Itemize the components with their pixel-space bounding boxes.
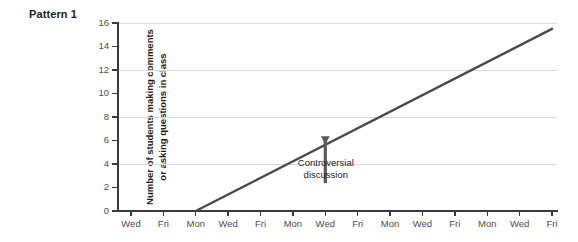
y-axis-tick-label: 8 [93,111,109,122]
y-axis-tick-label: 16 [93,17,109,28]
plot-area [117,23,557,211]
y-axis-title: Number of students making comments or as… [55,23,87,211]
x-axis-tick-mark [519,211,520,216]
y-axis-tick-mark [112,140,117,141]
y-axis-tick-mark [112,210,117,211]
y-axis-tick-mark [112,22,117,23]
x-axis-tick-mark [325,211,326,216]
y-axis-tick-label: 2 [93,181,109,192]
gridline [117,23,557,24]
y-axis-tick-label: 10 [93,87,109,98]
x-axis-tick-mark [422,211,423,216]
annotation-line-1: Controversial [248,157,403,169]
y-axis-tick-label: 14 [93,40,109,51]
y-axis-tick-mark [112,93,117,94]
x-axis-tick-mark [551,211,552,216]
gridline [117,70,557,71]
y-axis-line [117,22,119,212]
x-axis-tick-mark [130,211,131,216]
y-axis-tick-mark [112,69,117,70]
x-axis-tick-mark [163,211,164,216]
y-axis-tick-label: 6 [93,134,109,145]
y-axis-tick-label: 4 [93,158,109,169]
x-axis-tick-mark [195,211,196,216]
y-axis-tick-mark [112,116,117,117]
x-axis-tick-label: Fri [532,218,572,229]
x-axis-tick-mark [357,211,358,216]
x-axis-line [117,210,558,212]
annotation-line-2: discussion [248,169,403,181]
y-axis-tick-mark [112,46,117,47]
x-axis-tick-mark [260,211,261,216]
y-axis-tick-mark [112,187,117,188]
y-axis-tick-mark [112,163,117,164]
x-axis-tick-mark [292,211,293,216]
chart-annotation: Controversial discussion [248,157,403,180]
gridline [117,117,557,118]
x-axis-tick-mark [389,211,390,216]
y-axis-tick-label: 12 [93,64,109,75]
x-axis-tick-mark [227,211,228,216]
page-title: Pattern 1 [29,8,77,20]
x-axis-tick-mark [487,211,488,216]
x-axis-tick-mark [454,211,455,216]
chart-figure: Pattern 1 Number of students making comm… [0,0,578,242]
y-axis-tick-label: 0 [93,205,109,216]
